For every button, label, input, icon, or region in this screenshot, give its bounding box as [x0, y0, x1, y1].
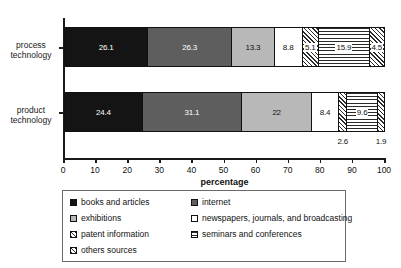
x-axis-tick: [191, 158, 193, 163]
bar-segment-value: 15.9: [335, 43, 352, 52]
bar-segment-value: 26.1: [99, 43, 114, 52]
bar-product-technology: 24.431.1228.42.69.61.9: [64, 92, 385, 132]
bar-segment: 22: [242, 93, 312, 131]
bar-segment: 2.6: [339, 93, 347, 131]
bar-process-technology: 26.126.313.38.85.115.94.5: [64, 27, 385, 67]
category-label-line2: technology: [2, 115, 60, 125]
bar-segment-value: 1.9: [376, 137, 387, 146]
bar-segment: 24.4: [65, 93, 143, 131]
bar-segment: 13.3: [232, 28, 274, 66]
legend-item: newspapers, journals, and broadcasting: [191, 213, 352, 223]
bar-segment-value: 2.6: [337, 137, 348, 146]
x-axis-tick: [95, 158, 97, 163]
x-axis-tick-label: 90: [340, 165, 364, 175]
bar-segment: 26.3: [148, 28, 232, 66]
bar-segment: 15.9: [319, 28, 370, 66]
legend-item: exhibitions: [70, 213, 121, 223]
legend-item-label: exhibitions: [81, 213, 121, 223]
x-axis-tick-label: 0: [51, 165, 75, 175]
legend-swatch-icon: [191, 231, 198, 238]
legend-item-label: books and articles: [81, 197, 150, 207]
bar-segment-value: 13.3: [245, 43, 260, 52]
legend: books and articlesexhibitionspatent info…: [62, 190, 346, 262]
x-axis-tick-label: 50: [212, 165, 236, 175]
legend-swatch-icon: [191, 215, 198, 222]
bar-segment: 4.5: [370, 28, 384, 66]
x-axis-tick: [224, 158, 226, 163]
legend-item-label: internet: [202, 197, 230, 207]
category-label-product-technology: product technology: [2, 105, 60, 125]
bar-segment: 8.8: [275, 28, 303, 66]
bar-segment: 26.1: [65, 28, 148, 66]
category-label-line1: process: [2, 40, 60, 50]
bar-segment-value: 5.1: [304, 43, 317, 52]
category-label-process-technology: process technology: [2, 40, 60, 60]
x-axis-title: percentage: [63, 177, 386, 187]
legend-item: others sources: [70, 245, 137, 255]
x-axis-tick: [384, 158, 386, 163]
x-axis-tick: [320, 158, 322, 163]
bar-segment-value: 9.6: [356, 108, 369, 117]
legend-item: books and articles: [70, 197, 150, 207]
x-axis-tick-label: 40: [179, 165, 203, 175]
legend-item-label: patent information: [81, 229, 149, 239]
bar-segment: 8.4: [312, 93, 339, 131]
legend-swatch-icon: [191, 199, 198, 206]
bar-segment: 5.1: [303, 28, 319, 66]
bar-segment-value: 26.3: [182, 43, 197, 52]
plot-area: 26.126.313.38.85.115.94.5 24.431.1228.42…: [63, 18, 385, 158]
bar-segment-value: 8.8: [283, 43, 294, 52]
legend-item-label: others sources: [81, 245, 137, 255]
x-axis-tick-label: 60: [244, 165, 268, 175]
stacked-bar-chart: process technology product technology 26…: [0, 0, 401, 268]
legend-swatch-icon: [70, 199, 77, 206]
x-axis-tick: [352, 158, 354, 163]
category-label-line1: product: [2, 105, 60, 115]
x-axis-tick-label: 100: [372, 165, 396, 175]
legend-swatch-icon: [70, 215, 77, 222]
bar-segment: 31.1: [143, 93, 242, 131]
legend-item-label: seminars and conferences: [202, 229, 302, 239]
x-axis-tick-label: 70: [276, 165, 300, 175]
legend-swatch-icon: [70, 247, 77, 254]
legend-item: patent information: [70, 229, 149, 239]
bar-segment: 9.6: [347, 93, 378, 131]
bar-segment-value: 8.4: [320, 108, 331, 117]
x-axis-tick: [288, 158, 290, 163]
x-axis-tick-label: 10: [83, 165, 107, 175]
x-axis-tick-label: 20: [115, 165, 139, 175]
bar-segment-value: 24.4: [96, 108, 111, 117]
bar-segment-value: 4.5: [371, 43, 384, 52]
x-axis-tick: [63, 158, 65, 163]
x-axis-tick: [256, 158, 258, 163]
legend-item: seminars and conferences: [191, 229, 302, 239]
x-axis-tick: [159, 158, 161, 163]
legend-item-label: newspapers, journals, and broadcasting: [202, 213, 352, 223]
x-axis-tick-label: 30: [147, 165, 171, 175]
x-axis-tick-label: 80: [308, 165, 332, 175]
bar-segment-value: 22: [272, 108, 281, 117]
x-axis-tick: [127, 158, 129, 163]
bar-segment-value: 31.1: [185, 108, 200, 117]
category-label-line2: technology: [2, 50, 60, 60]
legend-swatch-icon: [70, 231, 77, 238]
bar-segment: 1.9: [378, 93, 384, 131]
legend-item: internet: [191, 197, 230, 207]
